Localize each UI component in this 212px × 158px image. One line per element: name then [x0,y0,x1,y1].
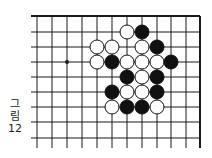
black-stone-icon [135,25,149,39]
white-stone-icon [135,40,149,54]
figure-caption: 그 림 12 [6,99,24,135]
go-board-diagram [0,0,212,158]
black-stone-icon [150,70,164,84]
white-stone-icon [120,85,134,99]
black-stone-icon [120,100,134,114]
white-stone-icon [105,100,119,114]
white-stone-icon [90,55,104,69]
white-stone-icon [90,40,104,54]
stones-layer [90,25,178,114]
star-points [65,60,69,64]
black-stone-icon [164,55,178,69]
white-stone-icon [120,55,134,69]
white-stone-icon [135,85,149,99]
white-stone-icon [150,55,164,69]
white-stone-icon [135,55,149,69]
black-stone-icon [105,85,119,99]
black-stone-icon [150,85,164,99]
white-stone-icon [120,25,134,39]
caption-number: 12 [6,123,24,135]
star-point-icon [65,60,69,64]
black-stone-icon [120,70,134,84]
black-stone-icon [135,100,149,114]
board-grid [31,16,200,148]
black-stone-icon [105,55,119,69]
white-stone-icon [135,70,149,84]
white-stone-icon [150,100,164,114]
white-stone-icon [105,40,119,54]
black-stone-icon [150,40,164,54]
